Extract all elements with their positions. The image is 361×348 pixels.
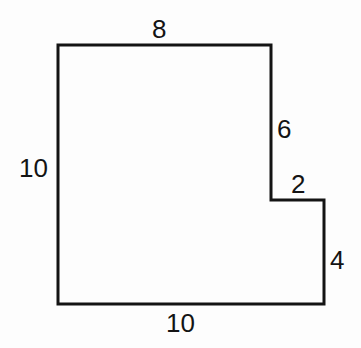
right-lower-edge-label: 4	[330, 247, 344, 273]
top-edge-label: 8	[152, 16, 166, 42]
l-shape-diagram: 8 10 6 2 4 10	[0, 0, 361, 348]
shape-outline	[0, 0, 361, 348]
bottom-edge-label: 10	[166, 310, 195, 336]
notch-edge-label: 2	[291, 171, 305, 197]
l-shape-polygon	[58, 45, 324, 304]
left-edge-label: 10	[19, 155, 48, 181]
right-upper-edge-label: 6	[277, 116, 291, 142]
